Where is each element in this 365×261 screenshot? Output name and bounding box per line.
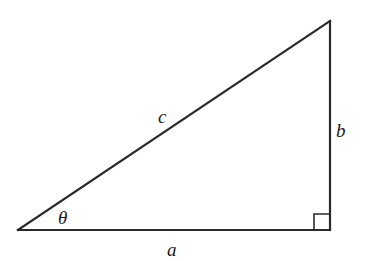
label-c: c (158, 106, 167, 127)
label-a: a (167, 239, 177, 260)
right-angle-marker (314, 214, 330, 230)
right-triangle-diagram: c b a θ (0, 0, 365, 261)
hypotenuse-c (18, 21, 330, 230)
label-theta: θ (58, 207, 67, 228)
label-b: b (336, 120, 346, 141)
